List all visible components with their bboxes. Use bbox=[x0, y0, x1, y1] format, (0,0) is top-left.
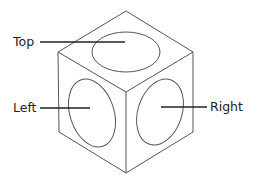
cube-outline bbox=[58, 11, 193, 173]
ellipse-top-face bbox=[92, 32, 160, 72]
cube-drawing bbox=[0, 0, 258, 182]
label-top: Top bbox=[13, 35, 34, 49]
edge-bottom-right bbox=[126, 132, 193, 173]
edge-inner-left bbox=[58, 52, 126, 92]
leader-lines bbox=[40, 42, 207, 108]
edge-top-right bbox=[126, 11, 193, 52]
cube-diagram: Top Left Right bbox=[0, 0, 258, 182]
label-right: Right bbox=[210, 100, 243, 114]
edge-top-left bbox=[58, 11, 126, 52]
edge-left-vertical bbox=[58, 52, 59, 132]
edge-inner-right bbox=[126, 52, 193, 92]
edge-bottom-left bbox=[59, 132, 126, 173]
label-left: Left bbox=[13, 101, 37, 115]
